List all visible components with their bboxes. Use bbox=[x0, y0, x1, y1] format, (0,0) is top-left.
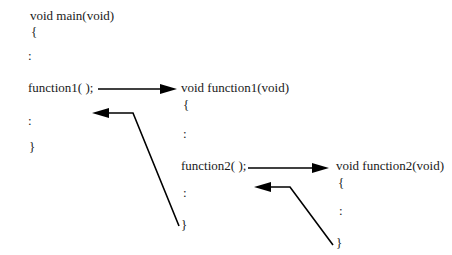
function1-header: void function1(void) bbox=[181, 81, 289, 95]
function1-body-colon2: : bbox=[183, 186, 187, 200]
function1-close-brace: } bbox=[181, 218, 187, 232]
main-open-brace: { bbox=[31, 25, 37, 39]
function2-open-brace: { bbox=[338, 176, 344, 190]
function1-open-brace: { bbox=[183, 98, 189, 112]
function2-header: void function2(void) bbox=[336, 159, 444, 173]
main-close-brace: } bbox=[29, 140, 35, 154]
arrow-layer bbox=[0, 0, 452, 255]
return-arrow-function1-to-main-icon bbox=[92, 108, 179, 226]
function1-body-colon: : bbox=[183, 127, 187, 141]
function-call-diagram: void main(void) { : function1( ); : } vo… bbox=[0, 0, 452, 255]
call-arrow-function1-to-function2-icon bbox=[248, 163, 329, 173]
main-body-colon2: : bbox=[28, 114, 32, 128]
call-arrow-main-to-function1-icon bbox=[98, 84, 177, 94]
return-arrow-function2-to-function1-icon bbox=[254, 182, 333, 245]
function2-close-brace: } bbox=[336, 236, 342, 250]
function2-body-colon: : bbox=[339, 204, 343, 218]
main-body-colon: : bbox=[28, 49, 32, 63]
main-call-function1: function1( ); bbox=[28, 81, 93, 95]
main-header: void main(void) bbox=[30, 9, 114, 23]
function1-call-function2: function2( ); bbox=[181, 159, 246, 173]
